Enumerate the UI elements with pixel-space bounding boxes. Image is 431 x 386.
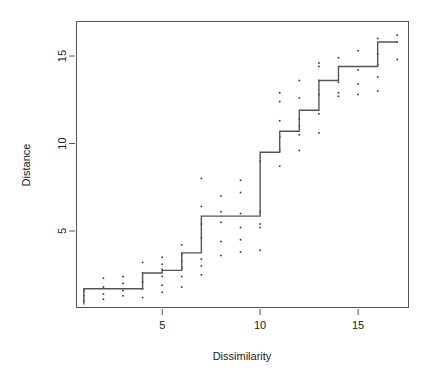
data-point [161,256,163,258]
data-point [220,221,222,223]
data-point [142,262,144,264]
x-tick-label: 10 [254,319,266,331]
data-point [338,95,340,97]
x-axis-title: Dissimilarity [213,350,272,362]
data-point [357,94,359,96]
data-point [122,295,124,297]
data-point [259,249,261,251]
y-tick-label: 15 [56,50,68,62]
data-point [240,192,242,194]
data-point [338,92,340,94]
y-tick-label: 5 [56,228,68,234]
x-tick-label: 15 [352,319,364,331]
data-point [279,120,281,122]
data-point [220,211,222,213]
data-point [240,227,242,229]
data-point [299,134,301,136]
x-tick-label: 5 [159,319,165,331]
data-point [318,113,320,115]
data-point [161,284,163,286]
data-point [240,179,242,181]
data-point [259,227,261,229]
data-point [299,97,301,99]
data-point [220,255,222,257]
data-point [161,263,163,265]
data-point [377,90,379,92]
data-point [201,265,203,267]
data-point [240,239,242,241]
data-point [103,298,105,300]
data-point [161,276,163,278]
data-point [279,165,281,167]
data-point [259,223,261,225]
data-point [240,213,242,215]
data-point [181,286,183,288]
data-point [377,38,379,40]
data-point [220,241,222,243]
data-point [357,83,359,85]
data-point [181,276,183,278]
data-point [357,50,359,52]
shepard-diagram-plot: 51015 51015 Dissimilarity Distance [0,0,431,386]
data-point [377,76,379,78]
data-point [103,293,105,295]
y-tick-label: 10 [56,137,68,149]
chart-figure: 51015 51015 Dissimilarity Distance [0,0,431,386]
data-point [220,195,222,197]
data-point [338,57,340,59]
data-point [357,69,359,71]
data-point [103,277,105,279]
data-point [396,59,398,61]
data-point [279,101,281,103]
data-point [201,206,203,208]
data-point [201,258,203,260]
data-point [318,132,320,134]
data-point [122,276,124,278]
data-point [299,150,301,152]
data-point [299,80,301,82]
data-point [279,92,281,94]
data-point [122,283,124,285]
data-point [181,244,183,246]
data-point [103,286,105,288]
data-point [201,274,203,276]
data-point [318,62,320,64]
data-point [201,178,203,180]
data-point [396,34,398,36]
data-point [142,297,144,299]
y-axis-title: Distance [20,144,32,187]
data-point [122,290,124,292]
data-point [338,81,340,83]
data-point [161,291,163,293]
data-point [240,251,242,253]
data-point [318,66,320,68]
